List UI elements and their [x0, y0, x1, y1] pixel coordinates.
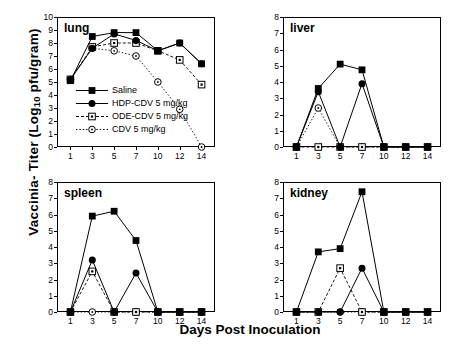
y-axis-tick-label: 8 [33, 178, 53, 187]
y-axis-tick-label: 1 [33, 292, 53, 301]
x-axis-tick-mark [92, 147, 93, 150]
x-axis-tick-label: 14 [423, 152, 432, 161]
legend-item: Saline [75, 83, 188, 96]
y-axis-tick-label: 10 [33, 13, 53, 22]
x-axis-tick-mark [136, 147, 137, 150]
legend-item: CDV 5 mg/kg [75, 122, 188, 135]
y-axis-tick-label: 2 [33, 275, 53, 284]
y-axis-tick-label: 6 [259, 45, 279, 54]
series-hdp-cdv [67, 257, 205, 316]
y-axis-tick-label: 7 [33, 52, 53, 61]
y-axis-tick-label: 4 [259, 243, 279, 252]
series-saline [67, 208, 205, 316]
series-saline [293, 61, 431, 151]
x-axis-tick-label: 1 [68, 317, 73, 326]
x-axis-tick-mark [70, 147, 71, 150]
y-axis-tick-label: 0 [259, 308, 279, 317]
y-axis-tick-label: 7 [33, 194, 53, 203]
legend-label: HDP-CDV 5 mg/kg [109, 98, 188, 108]
legend-marker-open-circle-icon [75, 122, 109, 135]
y-axis-tick-label: 2 [259, 110, 279, 119]
series-saline [293, 188, 431, 315]
y-axis-tick-label: 6 [33, 210, 53, 219]
legend-label: ODE-CDV 5 mg/kg [109, 111, 188, 121]
y-axis-tick-label: 3 [33, 104, 53, 113]
y-axis-tick-mark [280, 312, 283, 313]
y-axis-tick-label: 7 [259, 194, 279, 203]
y-axis-tick-label: 1 [259, 127, 279, 136]
x-axis-tick-label: 3 [316, 317, 321, 326]
x-axis-tick-label: 14 [197, 152, 206, 161]
x-axis-tick-label: 7 [360, 152, 365, 161]
y-axis-tick-label: 1 [259, 292, 279, 301]
series-hdp-cdv [293, 80, 431, 150]
panel-title: lung [64, 21, 89, 35]
y-axis-tick-label: 8 [259, 178, 279, 187]
panel-liver: liver0123456781357101214 [283, 17, 441, 147]
legend-item: ODE-CDV 5 mg/kg [75, 109, 188, 122]
legend-marker-filled-square-icon [75, 83, 109, 96]
x-axis-tick-label: 5 [112, 317, 117, 326]
x-axis-tick-label: 1 [294, 317, 299, 326]
y-axis-tick-label: 5 [259, 62, 279, 71]
legend-label: Saline [109, 85, 137, 95]
x-axis-tick-label: 10 [379, 317, 388, 326]
panel-kidney: kidney0123456781357101214 [283, 182, 441, 312]
x-axis-tick-label: 3 [90, 152, 95, 161]
x-axis-tick-label: 3 [90, 317, 95, 326]
y-axis-tick-label: 2 [33, 117, 53, 126]
x-axis-tick-label: 5 [112, 152, 117, 161]
x-axis-tick-label: 5 [338, 317, 343, 326]
panel-title: liver [290, 21, 315, 35]
legend-marker-filled-circle-icon [75, 96, 109, 109]
panel-title: spleen [64, 186, 102, 200]
series-layer [283, 182, 441, 312]
legend-item: HDP-CDV 5 mg/kg [75, 96, 188, 109]
y-axis-tick-label: 0 [33, 308, 53, 317]
y-axis-tick-label: 5 [33, 227, 53, 236]
panel-spleen: spleen0123456781357101214 [57, 182, 215, 312]
x-axis-tick-label: 12 [175, 152, 184, 161]
x-axis-tick-label: 12 [175, 317, 184, 326]
y-axis-tick-label: 6 [33, 65, 53, 74]
x-axis-tick-label: 1 [68, 152, 73, 161]
y-axis-tick-mark [54, 147, 57, 148]
y-axis-tick-label: 8 [33, 39, 53, 48]
x-axis-tick-label: 5 [338, 152, 343, 161]
y-axis-tick-label: 5 [33, 78, 53, 87]
y-axis-tick-label: 0 [259, 143, 279, 152]
x-axis-tick-label: 10 [153, 152, 162, 161]
x-axis-tick-label: 12 [401, 152, 410, 161]
x-axis-tick-label: 7 [134, 152, 139, 161]
x-axis-tick-label: 7 [360, 317, 365, 326]
x-axis-tick-label: 1 [294, 152, 299, 161]
y-axis-tick-label: 8 [259, 13, 279, 22]
y-axis-tick-label: 3 [259, 94, 279, 103]
legend-label: CDV 5 mg/kg [109, 124, 166, 134]
legend: SalineHDP-CDV 5 mg/kgODE-CDV 5 mg/kgCDV … [75, 83, 188, 135]
x-axis-tick-label: 14 [197, 317, 206, 326]
x-axis-tick-mark [180, 147, 181, 150]
y-axis-tick-label: 2 [259, 275, 279, 284]
y-axis-tick-label: 3 [259, 259, 279, 268]
series-hdp-cdv [293, 265, 431, 316]
y-axis-tick-label: 0 [33, 143, 53, 152]
x-axis-tick-label: 12 [401, 317, 410, 326]
y-axis-tick-label: 4 [33, 91, 53, 100]
x-axis-tick-label: 7 [134, 317, 139, 326]
x-axis-tick-label: 10 [379, 152, 388, 161]
x-axis-tick-mark [114, 147, 115, 150]
y-axis-tick-label: 5 [259, 227, 279, 236]
series-layer [57, 182, 215, 312]
y-axis-tick-label: 4 [259, 78, 279, 87]
legend-marker-open-square-icon [75, 109, 109, 122]
y-axis-tick-label: 9 [33, 26, 53, 35]
y-axis-tick-label: 4 [33, 243, 53, 252]
panel-title: kidney [290, 186, 328, 200]
y-axis-tick-mark [54, 312, 57, 313]
x-axis-tick-label: 14 [423, 317, 432, 326]
y-axis-tick-mark [280, 147, 283, 148]
y-axis-tick-label: 3 [33, 259, 53, 268]
series-layer [283, 17, 441, 147]
x-axis-tick-label: 10 [153, 317, 162, 326]
